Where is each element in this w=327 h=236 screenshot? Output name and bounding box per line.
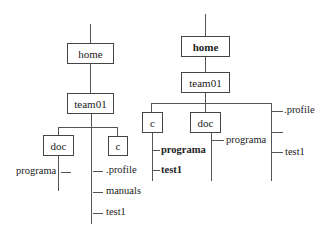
team01-node: team01: [181, 72, 230, 93]
doc-node: doc: [190, 112, 221, 133]
c-stem: [152, 133, 153, 181]
home-label: home: [193, 41, 219, 53]
tick: [153, 170, 160, 171]
home-label: home: [78, 48, 102, 60]
team01-node: team01: [67, 93, 114, 114]
c-node: c: [108, 136, 128, 156]
connector: [151, 103, 152, 112]
doc-node: doc: [43, 135, 74, 156]
home-node: home: [67, 43, 114, 64]
tick: [61, 172, 71, 173]
file-test1: test1: [106, 206, 126, 218]
doc-stem: [58, 156, 59, 191]
file-manuals: manuals: [106, 185, 141, 197]
tick: [212, 140, 224, 141]
c-label: c: [150, 117, 155, 129]
doc-label: doc: [51, 140, 67, 152]
file-programa: programa: [226, 134, 266, 146]
connector: [205, 103, 206, 112]
root-connector: [90, 24, 91, 43]
team01-label: team01: [189, 77, 221, 89]
team01-label: team01: [74, 98, 106, 110]
tick: [272, 132, 283, 133]
team01-stem: [271, 103, 272, 181]
tick: [153, 150, 160, 151]
connector: [58, 127, 59, 135]
doc-label: doc: [198, 117, 214, 129]
connector: [205, 57, 206, 72]
file-programa: programa: [16, 165, 56, 177]
tick: [93, 213, 103, 214]
branch-line: [58, 127, 118, 128]
tick: [93, 171, 103, 172]
file-profile: .profile: [106, 164, 137, 176]
c-label: c: [116, 140, 121, 152]
connector: [205, 93, 206, 103]
connector: [117, 127, 118, 136]
file-programa-bold: programa: [161, 144, 206, 156]
tick: [272, 111, 283, 112]
connector: [90, 64, 91, 93]
c-node: c: [142, 112, 163, 133]
root-connector: [205, 14, 206, 36]
file-profile: .profile: [284, 104, 315, 116]
branch-line: [151, 103, 272, 104]
file-test1: test1: [285, 146, 305, 158]
file-test1-bold: test1: [161, 164, 182, 176]
home-node: home: [181, 36, 230, 57]
tick: [93, 192, 103, 193]
team01-stem: [91, 114, 92, 224]
tick: [272, 152, 283, 153]
